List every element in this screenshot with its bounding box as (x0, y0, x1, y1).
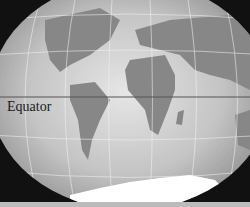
equator-label: Equator (7, 99, 51, 115)
